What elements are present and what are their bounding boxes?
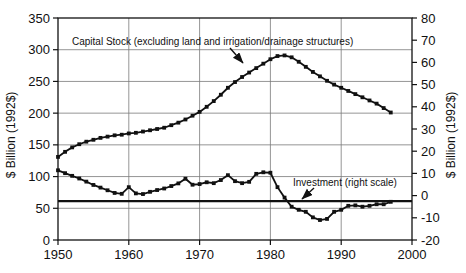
investment-marker (148, 190, 152, 194)
investment-marker (276, 185, 280, 189)
capital-stock-marker (99, 136, 103, 140)
capital-stock-investment-chart: 050100150200250300350-20-100102030405060… (0, 0, 466, 273)
investment-marker (332, 210, 336, 214)
capital-stock-marker (240, 75, 244, 79)
left-axis-tick-label: 150 (28, 137, 50, 152)
investment-marker (92, 183, 96, 187)
left-axis-title: $ Billion (1992$) (4, 92, 18, 179)
right-axis-tick-label: -10 (421, 210, 440, 225)
capital-stock-marker (283, 54, 287, 58)
investment-marker (77, 177, 81, 181)
investment-marker (346, 204, 350, 208)
investment-marker (339, 208, 343, 212)
capital-stock-marker (56, 155, 60, 159)
capital-stock-marker (290, 55, 294, 59)
capital-stock-marker (106, 135, 110, 139)
capital-stock-marker (332, 83, 336, 87)
right-axis-tick-label: 10 (421, 166, 435, 181)
investment-marker (162, 187, 166, 191)
investment-marker (318, 218, 322, 222)
investment-marker (353, 203, 357, 207)
capital-stock-marker (92, 138, 96, 142)
investment-marker (311, 215, 315, 219)
x-axis-tick-label: 1980 (256, 247, 285, 262)
capital-stock-marker (176, 121, 180, 125)
capital-stock-marker (269, 57, 273, 61)
capital-stock-marker (389, 111, 393, 115)
investment-marker (212, 181, 216, 185)
capital-stock-marker (212, 99, 216, 103)
capital-stock-marker (84, 140, 88, 144)
investment-marker (254, 172, 258, 176)
investment-marker (382, 202, 386, 206)
investment-marker (134, 191, 138, 195)
capital-stock-marker (353, 92, 357, 96)
investment-marker (226, 173, 230, 177)
investment-marker (247, 180, 251, 184)
capital-stock-marker (155, 127, 159, 131)
capital-stock-marker (361, 95, 365, 99)
left-axis-tick-label: 0 (43, 233, 50, 248)
capital-stock-marker (205, 105, 209, 109)
capital-stock-marker (120, 133, 124, 137)
investment-marker (361, 205, 365, 209)
capital-stock-marker (325, 79, 329, 83)
investment-marker (389, 200, 393, 204)
investment-marker (219, 178, 223, 182)
capital-stock-marker (141, 130, 145, 134)
right-axis-tick-label: 60 (421, 55, 435, 70)
capital-stock-marker (148, 128, 152, 132)
capital-stock-marker (77, 142, 81, 146)
capital-stock-marker (311, 70, 315, 74)
capital-stock-marker (63, 150, 67, 154)
x-axis-tick-label: 1990 (327, 247, 356, 262)
investment-marker (113, 191, 117, 195)
axis-tick-labels: 050100150200250300350-20-100102030405060… (28, 11, 440, 263)
investment-marker (191, 183, 195, 187)
capital-stock-marker (127, 132, 131, 136)
right-axis-tick-label: 30 (421, 122, 435, 137)
right-axis-title: $ Billion (1992$) (444, 92, 458, 179)
investment-marker (233, 179, 237, 183)
capital-stock-marker (339, 86, 343, 90)
capital-stock-marker (261, 62, 265, 66)
investment-marker (169, 184, 173, 188)
investment-marker (70, 174, 74, 178)
right-axis-tick-label: 80 (421, 11, 435, 26)
axis-ticks (53, 18, 417, 245)
x-axis-tick-label: 1950 (44, 247, 73, 262)
capital-stock-marker (375, 102, 379, 106)
capital-stock-marker (304, 65, 308, 69)
capital-stock-marker (70, 145, 74, 149)
left-axis-tick-label: 100 (28, 169, 50, 184)
investment-marker (141, 192, 145, 196)
capital-stock-annotation: Capital Stock (excluding land and irriga… (72, 36, 353, 47)
capital-stock-marker (191, 114, 195, 118)
investment-marker (325, 217, 329, 221)
capital-stock-marker (134, 131, 138, 135)
investment-marker (84, 180, 88, 184)
capital-stock-marker (297, 60, 301, 64)
investment-marker (106, 188, 110, 192)
capital-stock-marker (318, 74, 322, 78)
capital-stock-marker (198, 110, 202, 114)
capital-stock-marker (162, 126, 166, 130)
capital-stock-marker (169, 123, 173, 127)
investment-marker (290, 205, 294, 209)
capital-stock-marker (382, 106, 386, 110)
investment-marker (269, 171, 273, 175)
left-axis-tick-label: 200 (28, 106, 50, 121)
left-axis-tick-label: 300 (28, 42, 50, 57)
investment-marker (120, 192, 124, 196)
capital-stock-marker (226, 86, 230, 90)
capital-stock-marker (233, 80, 237, 84)
investment-marker (155, 188, 159, 192)
left-axis-tick-label: 250 (28, 74, 50, 89)
investment-marker (375, 202, 379, 206)
capital-stock-marker (219, 93, 223, 97)
capital-stock-marker (368, 99, 372, 103)
investment-marker (99, 186, 103, 190)
investment-marker (240, 181, 244, 185)
investment-marker (261, 170, 265, 174)
right-axis-tick-label: -20 (421, 233, 440, 248)
